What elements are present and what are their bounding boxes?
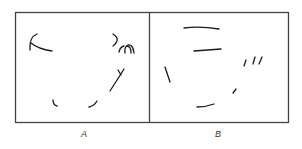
stroke-a-right-diagonal [110,69,124,91]
stroke-b-right-tick-2 [253,57,255,64]
stroke-b-bottom-line [197,104,214,107]
panel-b-strokes [165,27,262,107]
stroke-b-center-tick [233,89,236,93]
stroke-b-right-tick-3 [259,57,262,64]
stroke-b-top-line-2 [194,49,221,51]
stroke-a-top-right-curl-4 [127,46,131,53]
panel-label-b: B [208,129,228,139]
stroke-a-top-right-curl-1 [113,34,117,46]
stroke-a-bottom-middle-hook [89,101,97,107]
stroke-a-top-right-curl-2 [119,46,124,52]
stroke-b-right-tick-1 [244,60,246,66]
panel-label-a: A [74,129,94,139]
stroke-a-bottom-left-hook [53,100,57,106]
stroke-a-top-left-arc [30,34,52,51]
stroke-b-left-slash [165,67,170,82]
stroke-b-top-line-1 [184,27,219,29]
panel-a-strokes [30,34,134,107]
figure-canvas [0,0,302,149]
